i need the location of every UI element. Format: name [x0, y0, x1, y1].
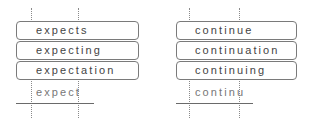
word-label: continuing: [195, 61, 266, 80]
stem-underline: [16, 103, 94, 104]
word-label: expecting: [36, 41, 102, 60]
stem-underline: [176, 103, 253, 104]
word-label: continuation: [195, 41, 280, 60]
stem-label: expect: [36, 83, 81, 102]
word-label: expectation: [36, 61, 115, 80]
word-label: continue: [195, 21, 253, 40]
group-continue: continue continuation continuing continu: [176, 0, 301, 119]
group-expect: expects expecting expectation expect: [16, 0, 141, 119]
stem-label: continu: [195, 83, 245, 102]
word-label: expects: [36, 21, 89, 40]
